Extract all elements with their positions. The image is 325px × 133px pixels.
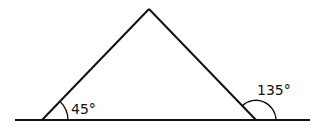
angle-arc-45 <box>60 102 68 121</box>
triangle-right-side <box>149 9 256 120</box>
angle-label-135: 135° <box>257 82 291 98</box>
triangle-diagram: 45° 135° <box>0 0 325 133</box>
angle-label-45: 45° <box>71 101 96 117</box>
